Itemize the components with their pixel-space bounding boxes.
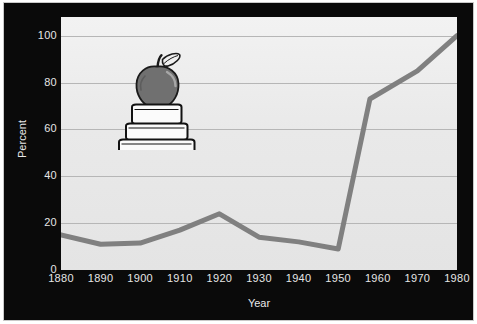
y-tick-label: 80	[7, 77, 57, 88]
y-axis-title: Percent	[16, 99, 28, 179]
y-tick-label: 60	[7, 123, 57, 134]
y-tick-label: 100	[7, 30, 57, 41]
x-axis-title: Year	[61, 297, 457, 309]
y-tick-label: 20	[7, 217, 57, 228]
figure-panel: 020406080100 188018901900191019201930194…	[3, 2, 474, 321]
apple-icon	[136, 66, 178, 107]
apple-leaf-icon	[162, 54, 179, 67]
chart-figure: 020406080100 188018901900191019201930194…	[0, 0, 477, 324]
apple-on-books-illustration	[115, 46, 197, 150]
book-bottom-icon	[119, 140, 195, 151]
x-tick-label: 1980	[434, 272, 477, 284]
plot-area	[61, 17, 457, 270]
book-middle-icon	[126, 124, 188, 141]
y-axis-tick-labels: 020406080100	[4, 17, 57, 270]
y-tick-label: 40	[7, 170, 57, 181]
book-top-icon	[132, 105, 182, 125]
x-axis-tick-labels: 1880189019001910192019301940195019601970…	[61, 272, 457, 288]
